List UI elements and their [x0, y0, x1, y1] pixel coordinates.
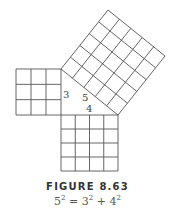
square-a-grid	[16, 69, 61, 115]
equals: =	[66, 195, 82, 208]
side-label-a: 3	[63, 89, 69, 100]
formula: 52 = 32 + 42	[0, 194, 175, 208]
side-label-b: 4	[86, 103, 92, 114]
side-label-c: 5	[82, 92, 88, 103]
square-c-grid	[61, 10, 165, 115]
figure-label: FIGURE 8.63	[0, 181, 175, 192]
formula-a: 3	[82, 195, 89, 208]
plus: +	[93, 195, 109, 208]
square-b-grid	[61, 115, 118, 171]
exp: 2	[116, 194, 120, 202]
